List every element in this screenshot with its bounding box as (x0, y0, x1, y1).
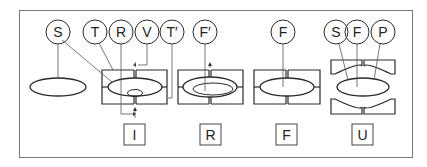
circle-label-T-prime: T′ (160, 20, 184, 44)
stage-U (331, 44, 395, 114)
circle-label-T: T (83, 20, 107, 44)
circle-label-F: F (271, 20, 295, 44)
svg-text:I: I (133, 127, 137, 143)
svg-text:V: V (142, 24, 152, 40)
circle-label-S1: S (46, 20, 70, 44)
stage-I (62, 40, 172, 118)
state-box-F: F (276, 124, 297, 145)
svg-text:S: S (331, 24, 340, 40)
svg-text:T′: T′ (166, 24, 178, 40)
svg-text:R: R (116, 24, 126, 40)
svg-text:P: P (378, 24, 387, 40)
stage-R (178, 44, 243, 104)
circle-label-F2: F (345, 20, 369, 44)
svg-text:F′: F′ (199, 24, 211, 40)
state-box-U: U (352, 124, 373, 145)
stage-F (254, 44, 320, 104)
svg-text:F: F (282, 127, 291, 143)
svg-text:F: F (353, 24, 362, 40)
circle-label-S2: S (324, 20, 348, 44)
svg-text:T: T (91, 24, 100, 40)
svg-text:F: F (279, 24, 288, 40)
svg-text:U: U (357, 127, 367, 143)
diagram-canvas: S T R V T′ F′ F S F P (0, 0, 427, 167)
circle-label-R: R (109, 20, 133, 44)
circle-label-V: V (135, 20, 159, 44)
svg-text:R: R (205, 127, 215, 143)
circle-label-P: P (371, 20, 395, 44)
stage-free (30, 44, 86, 96)
state-box-R: R (200, 124, 221, 145)
svg-text:S: S (53, 24, 62, 40)
circle-label-F-prime: F′ (193, 20, 217, 44)
state-box-I: I (124, 124, 145, 145)
